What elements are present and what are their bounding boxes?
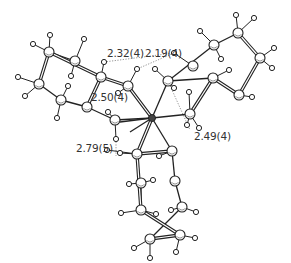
molecular-structure-diagram [0, 0, 291, 263]
metal-center-atom [149, 115, 156, 122]
distance-label-5: 2.49(4) [194, 131, 231, 142]
distance-label-4: 2.79(5) [76, 143, 113, 154]
distance-label-2: 2.19(4) [145, 48, 182, 59]
distance-label-1: 2.32(4) [107, 48, 144, 59]
distance-label-3: 2.50(4) [91, 92, 128, 103]
